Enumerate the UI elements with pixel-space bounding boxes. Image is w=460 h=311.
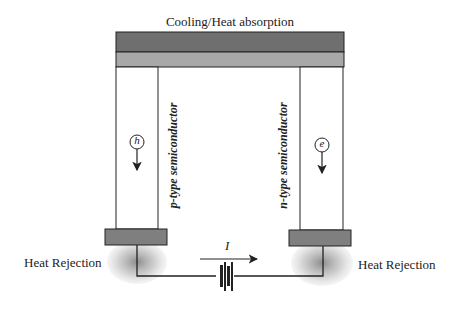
left-bottom-pad — [105, 229, 167, 245]
battery-icon — [220, 262, 233, 291]
n-type-label: n-type semiconductor — [276, 91, 291, 221]
top-plate-dark — [116, 32, 344, 52]
right-heat-glow — [291, 240, 353, 286]
right-bottom-pad — [289, 230, 351, 246]
current-label: I — [225, 238, 229, 254]
left-heat-rejection-label: Heat Rejection — [24, 255, 102, 271]
p-type-label: p-type semiconductor — [166, 91, 181, 221]
right-heat-rejection-label: Heat Rejection — [358, 257, 436, 273]
hole-carrier-label: h — [131, 134, 143, 146]
top-plate-light — [116, 52, 344, 67]
diagram-title: Cooling/Heat absorption — [0, 14, 460, 30]
electron-carrier-label: e — [316, 137, 328, 149]
